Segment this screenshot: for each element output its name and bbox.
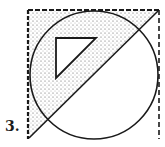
figure-label: 3.	[5, 118, 20, 134]
geometry-diagram	[0, 0, 165, 147]
